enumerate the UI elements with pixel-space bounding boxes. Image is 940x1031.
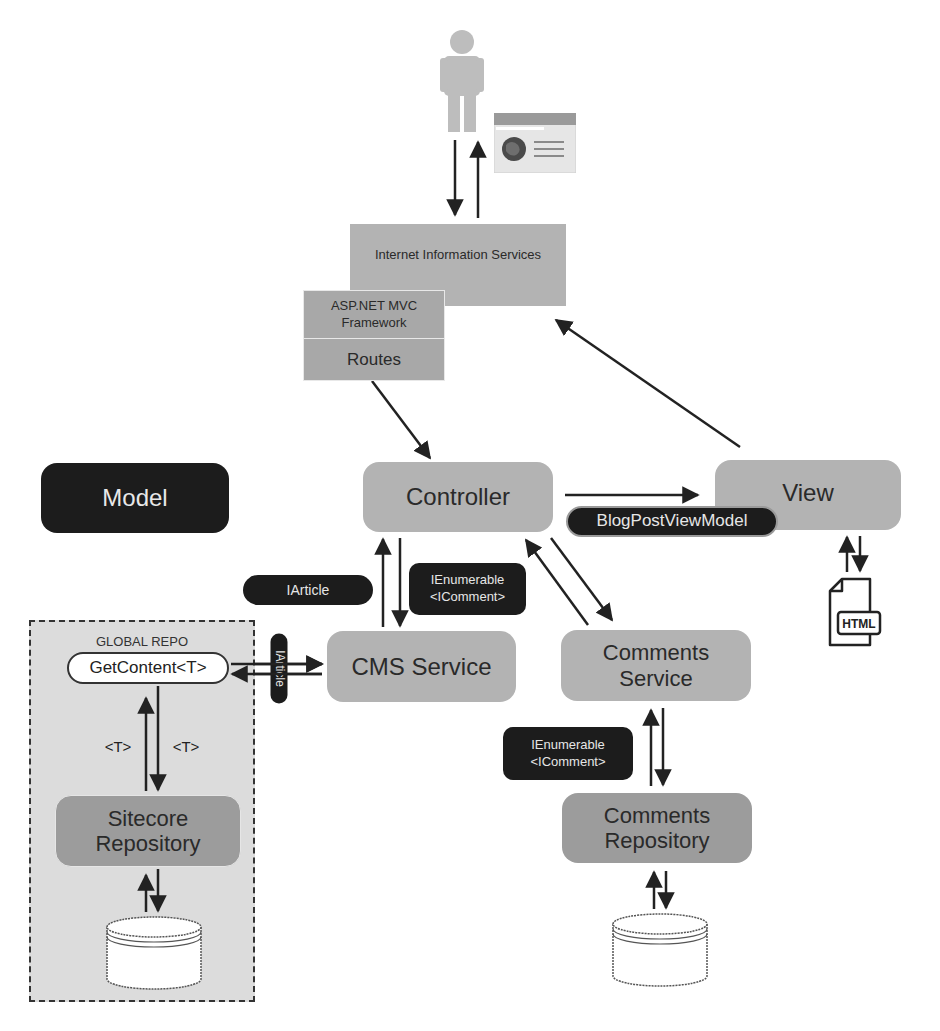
comments-repository-box: Comments Repository xyxy=(562,793,752,863)
ienumerable-line1: IEnumerable xyxy=(531,737,605,754)
aspnet-framework-box: ASP.NET MVC Framework xyxy=(304,291,444,339)
get-content-label: GetContent<T> xyxy=(89,658,206,678)
ienumerable-icomment-pill-bottom: IEnumerable <IComment> xyxy=(503,727,633,780)
bleed-through-text xyxy=(0,60,296,77)
ienumerable-line2: <IComment> xyxy=(430,589,505,606)
html-file-label: HTML xyxy=(838,614,880,634)
arrow-comments-to-controller xyxy=(526,540,588,625)
controller-label: Controller xyxy=(406,483,510,511)
aspnet-framework-label: ASP.NET MVC Framework xyxy=(314,298,434,332)
aspnet-mvc-stack: ASP.NET MVC Framework Routes xyxy=(303,290,445,381)
routes-label: Routes xyxy=(347,350,401,370)
iarticle-vertical-label: IArticle xyxy=(271,650,287,687)
view-label: View xyxy=(782,479,834,507)
get-content-method: GetContent<T> xyxy=(67,652,229,684)
ienumerable-line1: IEnumerable xyxy=(431,572,505,589)
arrow-controller-to-comments xyxy=(551,538,612,620)
model-label: Model xyxy=(102,484,167,512)
blog-post-view-model-pill: BlogPostViewModel xyxy=(566,506,778,537)
iarticle-vertical-pill: IArticle xyxy=(271,634,288,704)
ienumerable-line2: <IComment> xyxy=(530,754,605,771)
comments-service-label: Comments Service xyxy=(596,640,716,691)
global-repo-title: GLOBAL REPO xyxy=(31,634,253,649)
blog-post-view-model-label: BlogPostViewModel xyxy=(597,510,748,532)
arrow-view-to-iis xyxy=(556,320,740,447)
sitecore-repository-label: Sitecore Repository xyxy=(86,806,210,857)
browser-window-icon xyxy=(494,113,576,173)
ienumerable-icomment-pill-top: IEnumerable <IComment> xyxy=(409,563,526,615)
comments-service-box: Comments Service xyxy=(561,630,751,701)
model-box: Model xyxy=(41,463,229,533)
controller-box: Controller xyxy=(363,462,553,532)
type-param-label-right: <T> xyxy=(168,738,204,755)
cms-service-box: CMS Service xyxy=(327,631,516,702)
person-icon xyxy=(438,28,488,133)
iis-label: Internet Information Services xyxy=(375,246,541,264)
type-param-label-left: <T> xyxy=(100,738,136,755)
iarticle-pill: IArticle xyxy=(243,575,373,605)
iarticle-label: IArticle xyxy=(287,581,330,599)
database-icon xyxy=(611,912,709,988)
comments-repository-label: Comments Repository xyxy=(587,803,727,854)
html-file-icon xyxy=(828,577,882,647)
database-icon xyxy=(105,915,203,991)
cms-service-label: CMS Service xyxy=(351,653,491,681)
arrow-routes-to-controller xyxy=(372,381,430,458)
routes-box: Routes xyxy=(304,339,444,380)
sitecore-repository-box: Sitecore Repository xyxy=(55,795,241,867)
